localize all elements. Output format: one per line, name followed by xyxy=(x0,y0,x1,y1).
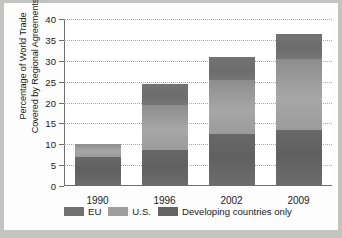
legend-item[interactable]: EU xyxy=(64,206,101,217)
legend-item[interactable]: U.S. xyxy=(108,206,151,217)
y-axis-tick xyxy=(59,123,64,124)
y-axis-tick xyxy=(59,103,64,104)
y-axis-tick xyxy=(59,165,64,166)
bar-segment[interactable] xyxy=(142,105,188,149)
y-axis-tick xyxy=(59,40,64,41)
bar-1990[interactable] xyxy=(75,144,121,186)
chart-legend: EUU.S.Developing countries only xyxy=(64,206,336,217)
y-axis-tick-label: 0 xyxy=(51,181,56,192)
y-axis-tick-label: 15 xyxy=(45,118,56,129)
bar-segment[interactable] xyxy=(75,144,121,157)
chart-figure: Percentage of World Trade Covered by Reg… xyxy=(0,0,342,238)
legend-label: EU xyxy=(88,206,101,217)
y-axis-tick xyxy=(59,19,64,20)
bar-segment[interactable] xyxy=(209,57,255,80)
y-axis-tick xyxy=(59,61,64,62)
bar-segment[interactable] xyxy=(142,84,188,106)
y-axis-title-line-2: Covered by Regional Agreements xyxy=(30,0,42,151)
legend-swatch-icon xyxy=(64,207,84,216)
bar-segment[interactable] xyxy=(142,150,188,186)
bar-segment[interactable] xyxy=(209,134,255,186)
bar-2009[interactable] xyxy=(276,34,322,186)
legend-label: U.S. xyxy=(132,206,151,217)
y-axis-tick xyxy=(59,186,64,187)
bar-1996[interactable] xyxy=(142,84,188,186)
x-axis-tick-label: 1990 xyxy=(86,195,108,206)
y-axis-tick-label: 20 xyxy=(45,97,56,108)
plot-area: 0510152025303540 1990199620022009 xyxy=(64,19,332,186)
legend-item[interactable]: Developing countries only xyxy=(158,206,292,217)
x-axis-tick-label: 2009 xyxy=(287,195,309,206)
gridline xyxy=(64,19,332,20)
y-axis-tick xyxy=(59,144,64,145)
bar-segment[interactable] xyxy=(276,59,322,130)
y-axis-tick-label: 30 xyxy=(45,55,56,66)
x-axis-tick-label: 1996 xyxy=(153,195,175,206)
y-axis-title: Percentage of World Trade Covered by Reg… xyxy=(18,0,48,151)
chart-card: Percentage of World Trade Covered by Reg… xyxy=(4,3,338,230)
y-axis-tick xyxy=(59,82,64,83)
bar-segment[interactable] xyxy=(276,34,322,59)
y-axis-tick-label: 35 xyxy=(45,34,56,45)
y-axis-tick-label: 10 xyxy=(45,139,56,150)
legend-swatch-icon xyxy=(158,207,178,216)
bar-segment[interactable] xyxy=(75,157,121,186)
x-axis-tick-label: 2002 xyxy=(220,195,242,206)
legend-swatch-icon xyxy=(108,207,128,216)
legend-label: Developing countries only xyxy=(182,206,292,217)
y-axis-tick-label: 40 xyxy=(45,14,56,25)
y-axis-title-line-1: Percentage of World Trade xyxy=(18,0,30,151)
bar-segment[interactable] xyxy=(276,130,322,186)
y-axis-tick-label: 5 xyxy=(51,160,56,171)
bar-segment[interactable] xyxy=(209,80,255,135)
y-axis-tick-label: 25 xyxy=(45,76,56,87)
bar-2002[interactable] xyxy=(209,57,255,186)
